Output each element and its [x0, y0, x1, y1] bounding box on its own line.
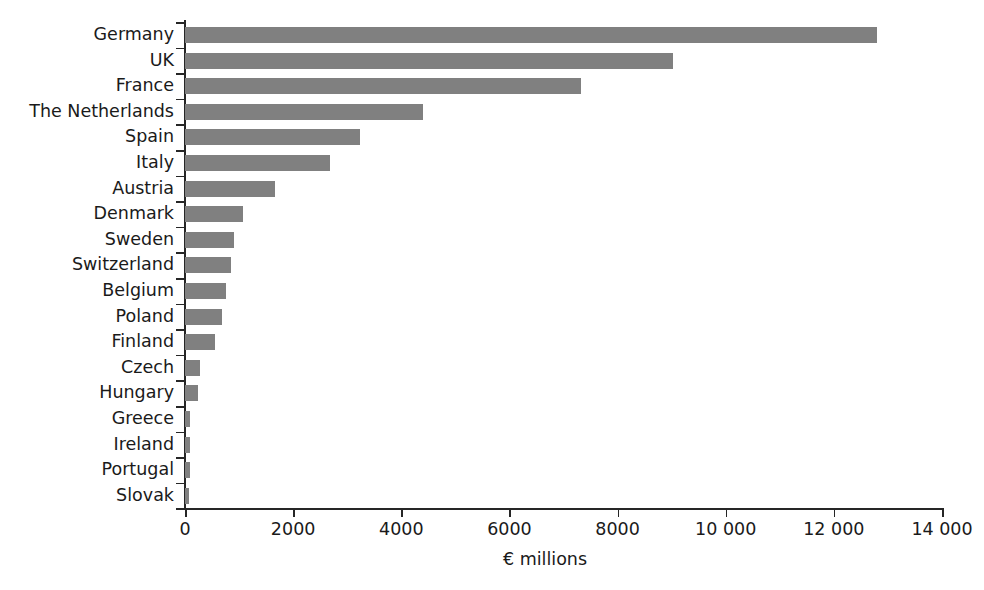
bar	[185, 257, 231, 273]
bar-row: UK	[185, 48, 942, 74]
category-label: Portugal	[102, 457, 174, 483]
category-label: Hungary	[99, 380, 174, 406]
bar	[185, 206, 243, 222]
category-label: France	[116, 73, 174, 99]
category-label: The Netherlands	[29, 99, 174, 125]
bar-row: Poland	[185, 304, 942, 330]
bar	[185, 129, 360, 145]
category-label: Finland	[111, 329, 174, 355]
bar-row: Sweden	[185, 227, 942, 253]
category-label: Austria	[112, 176, 174, 202]
y-axis-tick	[176, 380, 185, 382]
x-axis-tick	[293, 508, 295, 517]
bar	[185, 27, 877, 43]
y-axis-tick	[176, 252, 185, 254]
bar-row: Denmark	[185, 201, 942, 227]
x-axis-tick	[618, 508, 620, 517]
bar-chart: GermanyUKFranceThe NetherlandsSpainItaly…	[0, 0, 984, 590]
bar-row: Belgium	[185, 278, 942, 304]
bar-row: Slovak	[185, 483, 942, 509]
y-axis-tick	[176, 150, 185, 152]
category-label: UK	[150, 48, 174, 74]
plot-area: GermanyUKFranceThe NetherlandsSpainItaly…	[185, 22, 942, 508]
x-axis-tick-label: 0	[179, 519, 190, 539]
x-axis-tick-label: 10 000	[695, 519, 756, 539]
category-label: Greece	[112, 406, 174, 432]
category-label: Czech	[121, 355, 174, 381]
category-label: Switzerland	[72, 252, 174, 278]
y-axis-tick	[176, 508, 185, 510]
y-axis-tick	[176, 355, 185, 357]
bar-row: Italy	[185, 150, 942, 176]
category-label: Spain	[125, 124, 174, 150]
bar	[185, 411, 190, 427]
y-axis-tick	[176, 176, 185, 178]
bar	[185, 181, 275, 197]
bar	[185, 232, 234, 248]
bar	[185, 53, 673, 69]
y-axis-tick	[176, 227, 185, 229]
y-axis-tick	[176, 406, 185, 408]
category-label: Ireland	[113, 432, 174, 458]
category-label: Italy	[136, 150, 174, 176]
category-label: Sweden	[105, 227, 174, 253]
y-axis-tick	[176, 329, 185, 331]
bar-row: Ireland	[185, 432, 942, 458]
x-axis-tick	[942, 508, 944, 517]
bar	[185, 283, 226, 299]
x-axis-title-text: € millions	[503, 549, 587, 569]
bar	[185, 360, 200, 376]
bar-row: Czech	[185, 355, 942, 381]
y-axis-tick	[176, 304, 185, 306]
bar	[185, 309, 222, 325]
y-axis-tick	[176, 278, 185, 280]
y-axis-tick	[176, 124, 185, 126]
bar-row: Portugal	[185, 457, 942, 483]
y-axis-tick	[176, 432, 185, 434]
x-axis-tick	[185, 508, 187, 517]
x-axis-tick	[509, 508, 511, 517]
x-axis-tick	[401, 508, 403, 517]
bar	[185, 437, 190, 453]
x-axis-tick-label: 14 000	[911, 519, 972, 539]
bar-row: Hungary	[185, 380, 942, 406]
category-label: Belgium	[102, 278, 174, 304]
x-axis-tick	[726, 508, 728, 517]
bar	[185, 104, 423, 120]
y-axis-tick	[176, 201, 185, 203]
bar-row: Germany	[185, 22, 942, 48]
bar	[185, 334, 215, 350]
y-axis-tick	[176, 99, 185, 101]
bar-row: Austria	[185, 176, 942, 202]
bar-row: France	[185, 73, 942, 99]
x-axis-tick-label: 8000	[595, 519, 640, 539]
category-label: Poland	[116, 304, 174, 330]
bar	[185, 385, 198, 401]
x-axis-tick-label: 2000	[271, 519, 316, 539]
bar	[185, 462, 190, 478]
bar	[185, 78, 581, 94]
y-axis-tick	[176, 73, 185, 75]
bar-row: Greece	[185, 406, 942, 432]
bar-row: The Netherlands	[185, 99, 942, 125]
y-axis-tick	[176, 48, 185, 50]
x-axis-tick-label: 6000	[487, 519, 532, 539]
y-axis-tick	[176, 483, 185, 485]
category-label: Germany	[94, 22, 174, 48]
category-label: Slovak	[116, 483, 174, 509]
bar-row: Switzerland	[185, 252, 942, 278]
x-axis-tick-label: 12 000	[803, 519, 864, 539]
y-axis-tick	[176, 457, 185, 459]
bar	[185, 155, 330, 171]
x-axis-tick-label: 4000	[379, 519, 424, 539]
x-axis-title: € millions	[0, 549, 984, 569]
bar-row: Spain	[185, 124, 942, 150]
y-axis-tick	[176, 22, 185, 24]
bar	[185, 488, 189, 504]
bar-row: Finland	[185, 329, 942, 355]
category-label: Denmark	[94, 201, 174, 227]
x-axis-tick	[834, 508, 836, 517]
